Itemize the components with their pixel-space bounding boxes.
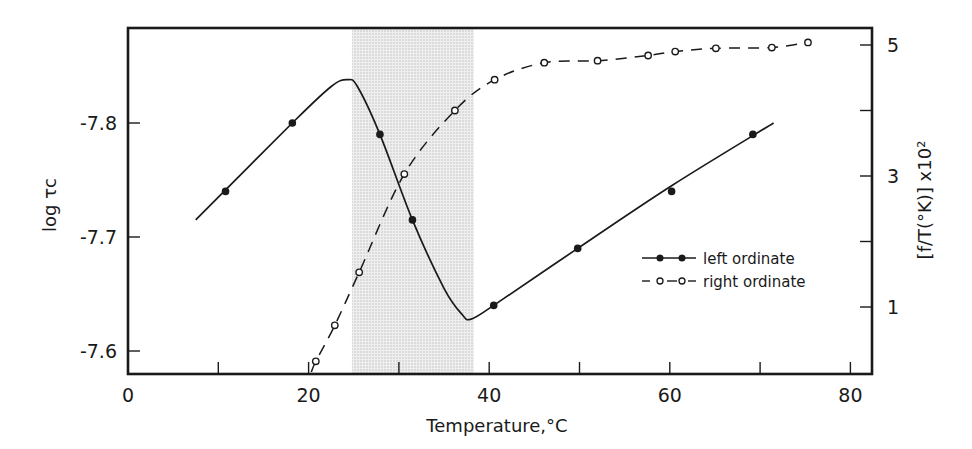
data-point-right	[332, 322, 338, 328]
data-point-right	[452, 107, 458, 113]
data-point-left	[749, 131, 757, 139]
x-tick-label: 20	[297, 384, 321, 406]
data-point-right	[713, 45, 719, 51]
x-tick-label: 60	[658, 384, 682, 406]
plot-frame	[128, 28, 872, 374]
data-point-right	[541, 59, 547, 65]
y2-axis-label: [f/T(°K)] x10²	[914, 141, 935, 260]
open-circle-icon	[657, 278, 663, 284]
x-tick-label: 40	[477, 384, 501, 406]
chart: 020406080 -7.8-7.7-7.6 135 Temperature,°…	[0, 0, 972, 449]
shaded-transition-region	[352, 28, 474, 374]
y-tick-label: -7.8	[80, 112, 117, 134]
data-point-right	[672, 48, 678, 54]
data-point-left	[574, 245, 582, 253]
data-point-left	[289, 119, 297, 127]
legend-label: right ordinate	[703, 273, 806, 291]
y-axis-left: -7.8-7.7-7.6	[80, 112, 140, 362]
legend-label: left ordinate	[703, 250, 795, 268]
y-axis-label: log τc	[39, 178, 60, 232]
y2-tick-label: 5	[887, 34, 899, 56]
x-axis: 020406080	[122, 362, 863, 406]
data-point-right	[356, 269, 362, 275]
data-point-right	[401, 171, 407, 177]
filled-circle-icon	[657, 255, 664, 262]
data-point-left	[376, 131, 384, 139]
filled-circle-icon	[679, 255, 686, 262]
y2-tick-label: 1	[887, 296, 899, 318]
data-point-right	[769, 44, 775, 50]
x-axis-label: Temperature,°C	[425, 415, 567, 436]
legend-item-left-ordinate: left ordinate	[642, 250, 795, 268]
data-point-left	[222, 188, 230, 196]
data-point-right	[594, 58, 600, 64]
left-ordinate-curve	[196, 79, 774, 319]
data-point-right	[491, 77, 497, 83]
y-tick-label: -7.7	[80, 226, 117, 248]
x-tick-label: 80	[838, 384, 862, 406]
data-point-left	[668, 188, 676, 196]
legend-item-right-ordinate: right ordinate	[642, 273, 806, 291]
data-point-right	[805, 39, 811, 45]
data-point-right	[313, 358, 319, 364]
y2-tick-label: 3	[887, 165, 899, 187]
data-point-left	[409, 216, 417, 224]
legend: left ordinate right ordinate	[642, 250, 806, 291]
y-tick-label: -7.6	[80, 340, 117, 362]
open-circle-icon	[679, 278, 685, 284]
y-axis-right: 135	[860, 34, 899, 318]
x-tick-label: 0	[122, 384, 134, 406]
data-point-right	[645, 52, 651, 58]
data-point-left	[490, 302, 498, 310]
